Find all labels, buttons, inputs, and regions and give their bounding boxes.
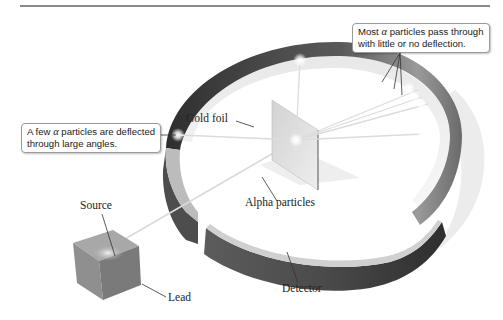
label-source: Source [80, 199, 112, 211]
callout-most-line2: with little or no deflection. [358, 38, 484, 50]
callout-few-line1: A few α particles are deflected [27, 126, 155, 138]
callout-few-line2: through large angles. [27, 138, 155, 150]
rutherford-diagram: Most α particles pass through with littl… [0, 0, 503, 320]
detector-ring-front [204, 222, 446, 291]
callout-most-particles: Most α particles pass through with littl… [352, 23, 490, 53]
label-gold-foil: Gold foil [186, 112, 228, 124]
callout-most-line1: Most α particles pass through [358, 26, 484, 38]
lead-block [73, 230, 141, 300]
source-glow [92, 245, 124, 261]
callout-few-particles: A few α particles are deflected through … [21, 123, 161, 153]
label-lead: Lead [168, 291, 191, 303]
label-detector: Detector [282, 282, 322, 294]
label-alpha-particles: Alpha particles [245, 196, 315, 208]
